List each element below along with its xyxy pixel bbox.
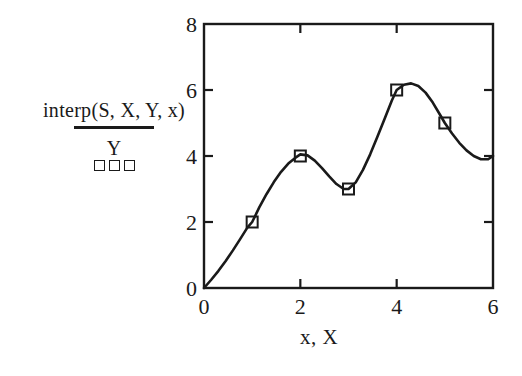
x-axis-title: x, X <box>300 325 338 350</box>
svg-text:2: 2 <box>295 294 306 319</box>
x-tick-labels: 0246 <box>199 294 499 319</box>
figure: interp(S, X, Y, x) Y 0246 02468 x, X <box>0 0 522 376</box>
svg-text:0: 0 <box>186 276 197 301</box>
plot-frame <box>204 24 493 288</box>
svg-text:6: 6 <box>488 294 499 319</box>
y-tick-labels: 02468 <box>186 12 197 301</box>
svg-text:4: 4 <box>186 144 197 169</box>
svg-text:6: 6 <box>186 78 197 103</box>
svg-text:4: 4 <box>391 294 402 319</box>
interp-curve <box>204 83 493 288</box>
data-point-markers <box>247 85 451 228</box>
plot-svg: 0246 02468 <box>0 0 522 376</box>
axis-ticks <box>204 24 493 288</box>
svg-text:2: 2 <box>186 210 197 235</box>
svg-text:8: 8 <box>186 12 197 37</box>
svg-text:0: 0 <box>199 294 210 319</box>
